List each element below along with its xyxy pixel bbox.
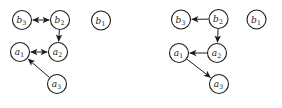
right-graph-edge-a1-a3 <box>187 59 211 77</box>
left-graph-node-b3: b3 <box>13 11 32 30</box>
right-graph-node-b2: b2 <box>209 10 228 29</box>
left-graph-node-b1: b1 <box>92 11 111 30</box>
left-graph: b3b2b1a1a2a3 <box>11 11 111 94</box>
graph-canvas: b3b2b1a1a2a3b3b2b1a1a2a3 <box>0 0 282 108</box>
left-graph-node-b2: b2 <box>51 11 70 30</box>
right-graph-node-a3: a3 <box>210 75 229 94</box>
right-graph-node-a1: a1 <box>170 44 189 63</box>
right-graph-edge-b2-a2 <box>217 29 218 42</box>
right-graph-node-a2: a2 <box>208 44 227 63</box>
left-graph-edge-b2-a2 <box>59 30 60 41</box>
right-graph: b3b2b1a1a2a3 <box>170 10 267 94</box>
left-graph-node-a2: a2 <box>49 43 68 62</box>
right-graph-node-b1: b1 <box>247 10 266 29</box>
right-graph-node-b3: b3 <box>172 10 191 29</box>
left-graph-node-a1: a1 <box>11 43 30 62</box>
left-graph-edge-a3-a1 <box>28 59 49 77</box>
causal-graphs-figure: b3b2b1a1a2a3b3b2b1a1a2a3 <box>0 0 282 108</box>
left-graph-node-a3: a3 <box>48 75 67 94</box>
